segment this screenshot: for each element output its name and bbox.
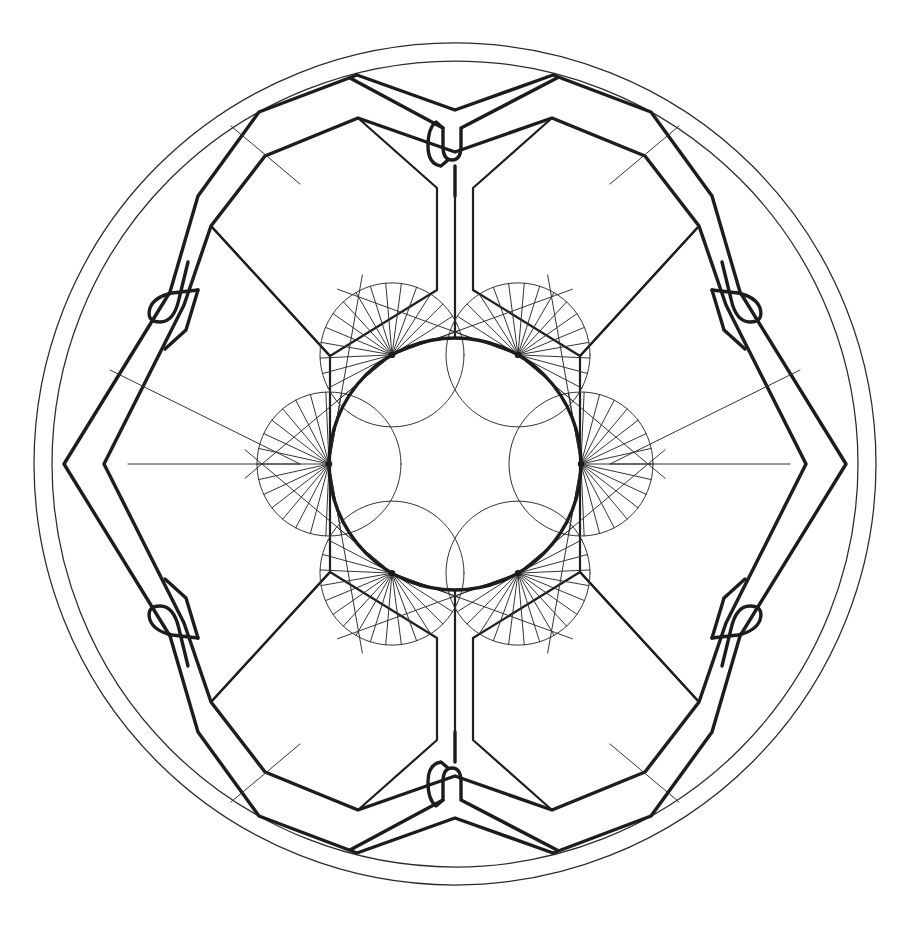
figure-root: Circular rosette line drawing A symmetri… bbox=[0, 0, 919, 950]
rosette-drawing: Circular rosette line drawing A symmetri… bbox=[0, 0, 919, 950]
